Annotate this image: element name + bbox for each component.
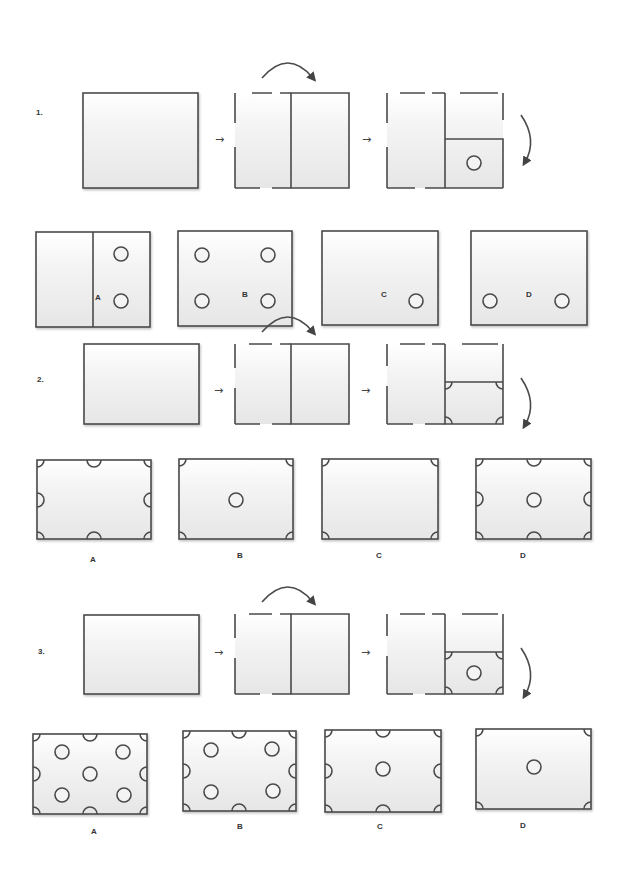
q1-option-label-a: A: [88, 293, 108, 302]
q3-option-b[interactable]: [183, 731, 296, 811]
q1-option-label-b: B: [235, 290, 255, 299]
q3-option-d[interactable]: [476, 729, 591, 809]
q3-option-c[interactable]: [325, 730, 441, 812]
question-3: [33, 587, 591, 814]
paper-folding-diagram: [0, 0, 626, 879]
fold-down-arrow-icon: [521, 115, 531, 162]
q3-option-label-b: B: [230, 822, 250, 831]
q1-option-d[interactable]: [471, 231, 587, 325]
fold-down-arrow-icon: [521, 648, 531, 695]
q1-step3-punched: [387, 93, 531, 188]
question-number-1: 1.: [36, 108, 43, 117]
q1-step2-folded: [235, 63, 349, 188]
fold-over-arrow-icon: [262, 587, 313, 602]
punched-hole: [467, 156, 481, 170]
q1-option-a[interactable]: [36, 232, 150, 327]
q2-option-b[interactable]: [179, 459, 293, 539]
q3-step3-cut: [387, 614, 531, 695]
q2-option-d[interactable]: [476, 459, 591, 539]
step-arrow-icon: →: [361, 646, 370, 659]
question-1: [36, 63, 587, 327]
q2-option-label-a: A: [83, 555, 103, 564]
q2-option-c[interactable]: [322, 459, 438, 539]
q2-option-label-d: D: [513, 551, 533, 560]
step-arrow-icon: →: [361, 384, 370, 397]
fold-down-arrow-icon: [521, 378, 531, 425]
q1-option-label-c: C: [374, 290, 394, 299]
q3-step2-folded: [235, 587, 349, 694]
q1-option-c[interactable]: [322, 231, 438, 325]
q2-step2-folded: [235, 317, 349, 424]
q2-option-label-c: C: [369, 551, 389, 560]
fold-over-arrow-icon: [262, 63, 313, 78]
question-2: [37, 317, 591, 539]
q2-step1-sheet: [84, 344, 199, 424]
question-number-2: 2.: [37, 375, 44, 384]
q2-step3-cut: [387, 344, 531, 425]
q1-option-label-d: D: [519, 290, 539, 299]
step-arrow-icon: →: [214, 384, 223, 397]
step-arrow-icon: →: [362, 133, 371, 146]
q3-option-label-d: D: [513, 821, 533, 830]
q3-option-label-a: A: [84, 827, 104, 836]
q2-option-label-b: B: [230, 551, 250, 560]
step-arrow-icon: →: [214, 646, 223, 659]
q3-option-label-c: C: [370, 822, 390, 831]
q3-option-a[interactable]: [33, 734, 147, 814]
q1-step1-sheet: [83, 93, 198, 188]
q2-option-a[interactable]: [37, 460, 151, 539]
question-number-3: 3.: [38, 647, 45, 656]
q3-step1-sheet: [84, 615, 199, 694]
step-arrow-icon: →: [215, 133, 224, 146]
q1-option-b[interactable]: [178, 231, 292, 326]
